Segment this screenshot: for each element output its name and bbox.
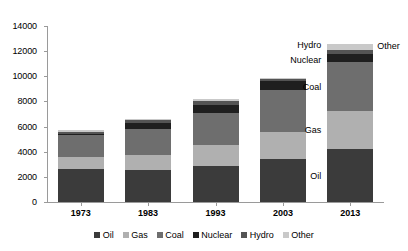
bar-segment-other [193,99,239,102]
bar-segment-gas [193,145,239,166]
annotation-coal: Coal [303,82,322,92]
bar-segment-gas [125,155,171,169]
legend-item-other: Other [283,231,314,240]
y-axis-tick-label: 4000 [0,147,42,156]
y-axis-tick [44,101,48,102]
y-axis-tick-label: 0 [0,198,42,207]
bar-segment-coal [193,113,239,144]
annotation-nuclear: Nuclear [290,55,321,65]
bar-segment-hydro [58,132,104,134]
chart-legend: OilGasCoalNuclearHydroOther [0,228,408,242]
legend-item-hydro: Hydro [241,231,274,240]
y-axis-tick-label: 2000 [0,172,42,181]
annotation-hydro: Hydro [297,40,321,50]
y-axis-tick-label: 10000 [0,72,42,81]
legend-swatch-icon [94,232,100,238]
bar-segment-nuclear [327,54,373,62]
bar-segment-other [327,44,373,50]
legend-label: Other [291,231,314,240]
legend-swatch-icon [193,232,199,238]
x-axis-tick [216,202,217,206]
bar-segment-oil [125,170,171,202]
bar-segment-gas [58,157,104,169]
bar-segment-nuclear [58,134,104,135]
y-axis-tick [44,152,48,153]
bar-segment-hydro [260,79,306,82]
annotation-oil: Oil [310,171,321,181]
legend-label: Coal [165,231,184,240]
legend-item-gas: Gas [123,231,148,240]
bar-segment-nuclear [260,81,306,90]
bar-segment-hydro [125,120,171,123]
y-axis-tick-label: 14000 [0,22,42,31]
x-axis-label-2013: 2013 [340,208,360,218]
bar-segment-nuclear [125,123,171,129]
y-axis-tick [44,202,48,203]
legend-swatch-icon [283,232,289,238]
y-axis-tick-label: 12000 [0,47,42,56]
legend-item-oil: Oil [94,231,114,240]
legend-swatch-icon [241,232,247,238]
legend-label: Hydro [250,231,274,240]
annotation-other: Other [377,41,400,51]
bar-segment-oil [193,166,239,202]
x-axis-tick [350,202,351,206]
y-axis-tick [44,51,48,52]
bar-segment-gas [327,111,373,149]
bar-segment-coal [125,129,171,155]
bar-segment-nuclear [193,105,239,114]
x-axis-tick [148,202,149,206]
bar-segment-gas [260,132,306,159]
bar-segment-oil [58,169,104,202]
legend-label: Gas [131,231,148,240]
legend-swatch-icon [157,232,163,238]
bar-segment-coal [58,135,104,157]
x-axis-tick [81,202,82,206]
bar-segment-oil [327,149,373,202]
bar-1993 [193,26,239,202]
y-axis-tick [44,127,48,128]
x-axis-label-2003: 2003 [273,208,293,218]
y-axis-tick [44,177,48,178]
y-axis-tick [44,76,48,77]
legend-item-nuclear: Nuclear [193,231,233,240]
y-axis-tick [44,26,48,27]
legend-label: Nuclear [201,231,232,240]
x-axis-tick [283,202,284,206]
annotation-gas: Gas [305,125,322,135]
bar-1983 [125,26,171,202]
bar-2013 [327,26,373,202]
bar-segment-oil [260,159,306,202]
bar-segment-hydro [193,101,239,104]
bar-segment-hydro [327,50,373,54]
y-axis-line [47,26,48,202]
bar-segment-coal [260,90,306,131]
legend-item-coal: Coal [157,231,184,240]
legend-swatch-icon [123,232,129,238]
y-axis-tick-label: 8000 [0,97,42,106]
stacked-bar-chart: 02000400060008000100001200014000 1973198… [0,0,408,251]
x-axis-label-1983: 1983 [138,208,158,218]
bar-segment-other [125,119,171,120]
legend-label: Oil [103,231,114,240]
bar-segment-other [260,78,306,79]
bar-segment-coal [327,62,373,111]
bar-1973 [58,26,104,202]
bar-segment-other [58,130,104,131]
x-axis-label-1993: 1993 [205,208,225,218]
bar-2003 [260,26,306,202]
y-axis-tick-label: 6000 [0,122,42,131]
x-axis-label-1973: 1973 [71,208,91,218]
